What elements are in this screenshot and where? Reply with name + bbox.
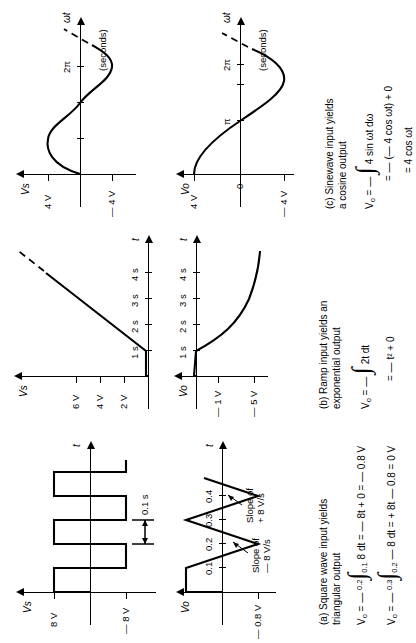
a-eq1-upper-limit: 0.2 <box>355 580 364 590</box>
a-eq2-body: — 8 dt = + 8t — 0.8 = 0 V <box>386 446 397 560</box>
plot-b-input: Vs t 2 V 4 V 6 V 1 s 2 s 3 s 4 s <box>14 231 164 421</box>
panel-a-equation-1: Vo = — 0.2∫0.1 8 dt = — 8t + 0 = — 0.8 V <box>352 446 371 625</box>
panel-c-caption: (c) Sinewave input yields a cosine outpu… <box>324 9 349 209</box>
plot-c-input: Vs ωt (seconds) 4 V — 4 V 2π <box>14 6 164 221</box>
b-eq1-integral-icon: ∫ <box>347 367 374 374</box>
a-eq2-integral-icon: ∫ <box>373 573 400 580</box>
b-input-ramp-line <box>14 231 164 421</box>
b-eq1-equals: = — <box>360 377 371 396</box>
panel-b-equation-2: = — t² + 0 <box>384 337 397 381</box>
a-input-period-label: 0.1 s <box>140 494 150 515</box>
b-eq1-body: 2t dt <box>360 345 371 364</box>
b-eq1-lhs-sub: o <box>364 398 373 402</box>
a-eq2-lhs: V <box>386 618 397 625</box>
c-eq1-lhs: V <box>364 202 375 209</box>
a-output-slope-pointers <box>176 435 306 635</box>
c-output-cosine-curve <box>176 6 316 221</box>
panel-b-caption: (b) Ramp input yields an exponential out… <box>318 219 343 409</box>
a-eq1-integral-icon: ∫ <box>343 573 370 580</box>
a-eq2-lower-limit: 0.2 <box>390 562 399 572</box>
b-output-exponential-curve <box>176 231 306 421</box>
panel-a: Vs t 8 V — 8 V 0.1 s <box>0 425 416 643</box>
c-eq1-equals: = — <box>364 177 375 196</box>
a-eq2-lhs-sub: o <box>390 614 399 618</box>
a-eq1-lhs: V <box>356 618 367 625</box>
c-eq1-lhs-sub: o <box>368 198 377 202</box>
a-input-period-indicator <box>14 435 164 635</box>
rotated-figure-wrapper: Vs t 8 V — 8 V 0.1 s <box>0 0 416 643</box>
c-eq1-integral-icon: ∫ <box>351 167 378 174</box>
a-eq2-equals: = — <box>386 593 397 612</box>
a-output-slope-neg-label: Slope of — 8 V/s <box>250 538 272 573</box>
a-eq2-upper-limit: 0.3 <box>385 580 394 590</box>
c-eq1-body: 4 sin ωt dω <box>364 114 375 165</box>
a-eq1-body: 8 dt = — 8t + 0 = — 0.8 V <box>356 446 367 560</box>
plot-c-output: Vo ωt (seconds) 4 V 0 — 4 V π 2π <box>176 6 316 221</box>
panel-c-equation-2: = — (— 4 cos ωt) + 0 <box>382 86 395 181</box>
plot-b-output: Vo t 1 s 2 s 3 s 4 s — 1 V — 5 V <box>176 231 306 421</box>
a-output-slope-pos-label: Slope of + 8 V/s <box>244 488 266 523</box>
b-eq1-lhs: V <box>360 402 371 409</box>
plot-a-output: Vo t 0.1 0.2 0.3 0.4 — 0.8 V Slope of — <box>176 435 306 635</box>
plot-a-input: Vs t 8 V — 8 V 0.1 s <box>14 435 164 635</box>
a-eq1-lhs-sub: o <box>360 614 369 618</box>
panel-b: Vs t 2 V 4 V 6 V 1 s 2 s 3 s 4 s <box>0 225 416 425</box>
panel-a-caption: (a) Square wave input yields triangular … <box>318 425 343 625</box>
c-input-sine-curve <box>14 6 164 221</box>
a-eq1-lower-limit: 0.1 <box>360 562 369 572</box>
panel-c: Vs ωt (seconds) 4 V — 4 V 2π Vo ωt (s <box>0 0 416 225</box>
a-eq1-equals: = — <box>356 593 367 612</box>
panel-a-equation-2: Vo = — 0.3∫0.2 — 8 dt = + 8t — 0.8 = 0 V <box>382 446 401 625</box>
panel-b-equation-1: Vo = — ∫ 2t dt <box>356 345 375 409</box>
panel-c-equation-3: = 4 cos ωt <box>402 127 415 173</box>
panel-c-equation-1: Vo = — ∫ 4 sin ωt dω <box>360 114 379 209</box>
figure-page: Vs t 8 V — 8 V 0.1 s <box>0 0 416 643</box>
